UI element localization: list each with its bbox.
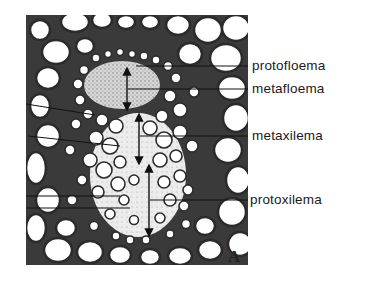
label-metafloema: metafloema	[252, 82, 325, 96]
label-metaxilema: metaxilema	[252, 129, 323, 143]
label-protoxilema: protoxilema	[250, 193, 322, 207]
panel-letter: A	[228, 247, 240, 267]
label-protofloema: protofloema	[252, 59, 326, 73]
